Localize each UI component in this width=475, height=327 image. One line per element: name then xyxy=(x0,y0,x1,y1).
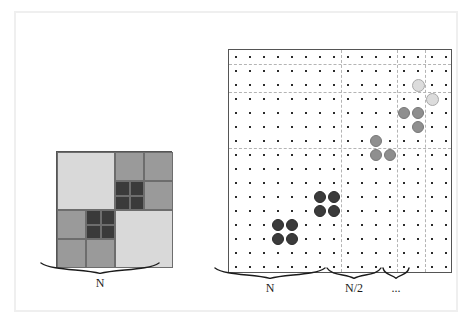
grid-dot xyxy=(431,182,434,185)
grid-dot xyxy=(431,168,434,171)
grid-dot xyxy=(403,154,406,157)
grid-dot xyxy=(389,238,392,241)
grid-dot xyxy=(305,140,308,143)
grid-dot xyxy=(347,182,350,185)
grid-dot xyxy=(319,154,322,157)
grid-marker-light xyxy=(412,79,425,92)
grid-dot xyxy=(277,252,280,255)
grid-dot xyxy=(333,238,336,241)
grid-dot xyxy=(347,196,350,199)
grid-dot xyxy=(417,168,420,171)
grid-marker-dark xyxy=(286,219,298,231)
grid-dot xyxy=(333,84,336,87)
band-divider-horizontal xyxy=(229,148,451,149)
grid-dot xyxy=(375,112,378,115)
grid-dot xyxy=(347,238,350,241)
grid-dot xyxy=(361,196,364,199)
grid-dot xyxy=(431,56,434,59)
grid-dot xyxy=(249,140,252,143)
grid-dot xyxy=(249,112,252,115)
grid-dot xyxy=(305,154,308,157)
grid-dot xyxy=(445,154,448,157)
grid-dot xyxy=(263,112,266,115)
grid-dot xyxy=(277,168,280,171)
grid-dot xyxy=(305,168,308,171)
grid-dot xyxy=(277,70,280,73)
grid-dot xyxy=(431,196,434,199)
grid-dot xyxy=(305,210,308,213)
grid-dot xyxy=(291,140,294,143)
grid-dot xyxy=(235,210,238,213)
grid-dot xyxy=(235,182,238,185)
grid-dot xyxy=(277,196,280,199)
quadtree-square xyxy=(56,151,172,268)
quadtree-cell-q-tr-bl-a xyxy=(115,181,130,196)
grid-dot xyxy=(375,84,378,87)
grid-dot xyxy=(263,98,266,101)
grid-dot xyxy=(403,182,406,185)
grid-marker-dark xyxy=(286,233,298,245)
grid-dot xyxy=(403,238,406,241)
grid-dot xyxy=(361,224,364,227)
grid-dot xyxy=(291,126,294,129)
grid-dot xyxy=(445,238,448,241)
grid-dot xyxy=(389,98,392,101)
brace-n-half-label: N/2 xyxy=(326,281,382,296)
quadtree-cell-q-tr-top-right xyxy=(144,152,173,181)
grid-dot xyxy=(319,140,322,143)
grid-dot xyxy=(417,98,420,101)
grid-dot xyxy=(319,238,322,241)
grid-dot xyxy=(375,98,378,101)
left-brace xyxy=(40,262,160,274)
grid-dot xyxy=(445,266,448,269)
grid-dot xyxy=(389,112,392,115)
grid-dot xyxy=(291,168,294,171)
grid-dot xyxy=(235,56,238,59)
grid-dot xyxy=(305,126,308,129)
grid-dot xyxy=(263,196,266,199)
grid-dot xyxy=(319,168,322,171)
grid-dot xyxy=(347,56,350,59)
grid-dot xyxy=(375,224,378,227)
brace-ellip-label: ... xyxy=(382,281,410,296)
grid-dot xyxy=(263,168,266,171)
grid-dot xyxy=(305,252,308,255)
grid-dot xyxy=(375,252,378,255)
grid-dot xyxy=(235,112,238,115)
grid-dot xyxy=(249,252,252,255)
grid-marker-dark xyxy=(314,205,326,217)
grid-dot xyxy=(235,224,238,227)
grid-dot xyxy=(403,126,406,129)
grid-dot xyxy=(291,70,294,73)
grid-dot xyxy=(445,182,448,185)
grid-dot xyxy=(403,70,406,73)
grid-dot xyxy=(333,126,336,129)
grid-dot xyxy=(375,238,378,241)
grid-dot xyxy=(305,238,308,241)
grid-dot xyxy=(333,154,336,157)
grid-dot xyxy=(375,210,378,213)
grid-dot xyxy=(417,252,420,255)
grid-dot xyxy=(277,154,280,157)
grid-dot xyxy=(291,182,294,185)
grid-dot xyxy=(263,140,266,143)
grid-marker-mid xyxy=(398,107,410,119)
grid-dot xyxy=(445,84,448,87)
figure-border: N NN/2... xyxy=(14,11,458,312)
grid-dot xyxy=(291,56,294,59)
grid-dot xyxy=(333,56,336,59)
grid-dot xyxy=(347,70,350,73)
grid-dot xyxy=(249,224,252,227)
grid-dot xyxy=(375,70,378,73)
grid-dot xyxy=(291,98,294,101)
grid-dot xyxy=(445,56,448,59)
quadtree-cell-q-tr-top-left xyxy=(115,152,144,181)
grid-dot xyxy=(333,168,336,171)
grid-dot xyxy=(263,126,266,129)
grid-dot xyxy=(403,98,406,101)
grid-dot xyxy=(445,252,448,255)
grid-dot xyxy=(389,126,392,129)
grid-dot xyxy=(333,98,336,101)
grid-dot xyxy=(375,126,378,129)
grid-dot xyxy=(305,98,308,101)
